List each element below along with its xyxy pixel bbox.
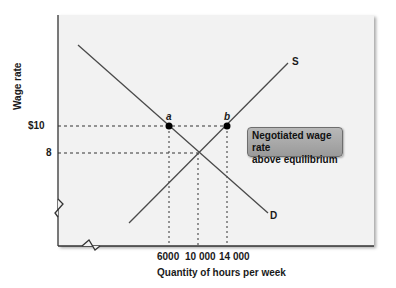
callout-line-2: above equilibrium bbox=[252, 154, 338, 166]
supply-label: S bbox=[292, 56, 299, 67]
y-axis-break bbox=[55, 199, 63, 217]
y-axis-label: Wage rate bbox=[12, 63, 23, 110]
x-tick-10000: 10 000 bbox=[185, 251, 216, 262]
x-tick-6000: 6000 bbox=[157, 251, 179, 262]
y-tick-10: $10 bbox=[28, 120, 45, 131]
callout-line-1: Negotiated wage rate bbox=[252, 130, 338, 154]
point-b-label: b bbox=[224, 111, 230, 122]
x-axis-break bbox=[82, 240, 100, 250]
annotation-callout: Negotiated wage rate above equilibrium bbox=[247, 127, 343, 157]
point-a bbox=[166, 123, 173, 130]
y-tick-8: 8 bbox=[46, 147, 52, 158]
demand-curve bbox=[78, 45, 268, 213]
demand-label: D bbox=[270, 210, 277, 221]
x-axis-label: Quantity of hours per week bbox=[157, 267, 286, 278]
x-tick-14000: 14 000 bbox=[219, 251, 250, 262]
point-b bbox=[224, 123, 231, 130]
point-a-label: a bbox=[166, 111, 172, 122]
